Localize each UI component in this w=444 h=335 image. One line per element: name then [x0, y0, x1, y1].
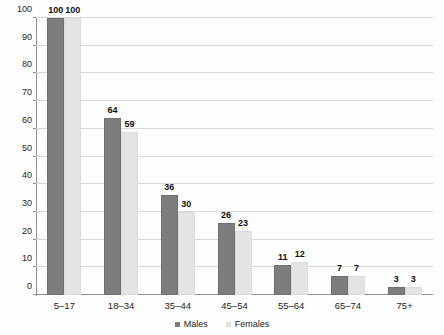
bar-group: 6459 [104, 18, 138, 295]
bar-value-label: 7 [343, 264, 370, 273]
bar-value-label: 100 [59, 6, 86, 15]
x-axis-tick-label: 75+ [376, 300, 433, 311]
bar-males[interactable] [388, 287, 405, 295]
bar-group: 2623 [218, 18, 252, 295]
bar-chart: 0102030405060708090100 10010064593630262… [0, 0, 444, 335]
bar-males[interactable] [104, 118, 121, 295]
y-axis-tick-marks [0, 18, 36, 295]
plot-area: 10010064593630262311127733 [36, 18, 433, 295]
bar-value-label: 59 [116, 120, 143, 129]
bar-group: 77 [331, 18, 365, 295]
x-axis-tick-label: 45–54 [206, 300, 263, 311]
x-axis-labels: 5–1718–3435–4445–5455–6465–7475+ [36, 300, 433, 316]
x-axis-tick-label: 55–64 [263, 300, 320, 311]
bar-males[interactable] [274, 265, 291, 295]
legend-item-females[interactable]: Females [226, 320, 270, 329]
bar-group: 33 [388, 18, 422, 295]
bar-value-label: 36 [156, 183, 183, 192]
x-axis-tick-label: 5–17 [36, 300, 93, 311]
bar-group: 100100 [47, 18, 81, 295]
x-axis-tick-label: 18–34 [93, 300, 150, 311]
bar-value-label: 12 [286, 250, 313, 259]
bar-value-label: 23 [230, 219, 257, 228]
bar-females[interactable] [235, 231, 252, 295]
males-swatch-icon [175, 322, 180, 327]
bar-females[interactable] [348, 276, 365, 295]
x-axis-tick-label: 35–44 [149, 300, 206, 311]
bar-females[interactable] [121, 132, 138, 295]
bar-females[interactable] [64, 18, 81, 295]
bar-males[interactable] [218, 223, 235, 295]
bar-group: 1112 [274, 18, 308, 295]
bar-males[interactable] [331, 276, 348, 295]
bar-group: 3630 [161, 18, 195, 295]
legend-item-males[interactable]: Males [175, 320, 208, 329]
legend-label: Females [235, 320, 270, 329]
bar-males[interactable] [47, 18, 64, 295]
x-axis-tick-label: 65–74 [320, 300, 377, 311]
bar-females[interactable] [405, 287, 422, 295]
bar-females[interactable] [178, 212, 195, 295]
bar-value-label: 30 [173, 200, 200, 209]
y-axis-tick-label-100: 100 [2, 5, 32, 14]
bar-value-label: 3 [400, 275, 427, 284]
bar-males[interactable] [161, 195, 178, 295]
legend-label: Males [184, 320, 208, 329]
females-swatch-icon [226, 322, 231, 327]
bar-females[interactable] [291, 262, 308, 295]
chart-legend: MalesFemales [0, 320, 444, 329]
bar-value-label: 64 [99, 106, 126, 115]
